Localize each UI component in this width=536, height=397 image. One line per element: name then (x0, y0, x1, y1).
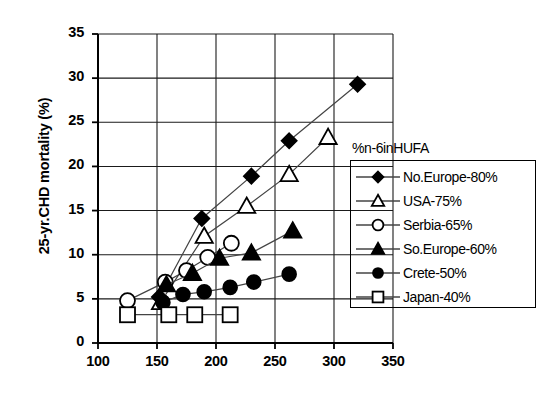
marker-open-square (187, 307, 202, 322)
y-tick-label: 35 (44, 24, 84, 40)
legend-item-label: No.Europe-80% (403, 169, 497, 185)
marker-open-circle (373, 220, 384, 231)
marker-filled-triangle (284, 222, 301, 237)
legend-marker-open-triangle (355, 191, 401, 211)
legend-item-japan-40[interactable]: Japan-40% (355, 285, 470, 309)
x-tick-label: 200 (186, 353, 246, 369)
y-tick-label: 0 (44, 333, 84, 349)
legend-item-label: Crete-50% (403, 265, 466, 281)
legend-marker-open-square (355, 287, 401, 307)
legend-marker-filled-triangle (355, 239, 401, 259)
x-tick-label: 150 (127, 353, 187, 369)
legend-title: %n-6inHUFA (352, 140, 429, 156)
marker-open-circle (120, 293, 135, 308)
x-tick-label: 100 (68, 353, 128, 369)
gridlines (98, 34, 393, 343)
series-usa-75 (152, 129, 337, 309)
legend-box: No.Europe-80%USA-75%Serbia-65%So.Europe-… (350, 160, 536, 308)
marker-filled-circle (373, 268, 383, 278)
marker-open-triangle (196, 228, 213, 243)
legend-marker-filled-diamond (355, 167, 401, 187)
y-tick-label: 20 (44, 156, 84, 172)
legend-marker-filled-circle (355, 263, 401, 283)
y-tick-label: 5 (44, 289, 84, 305)
legend-item-no-europe-80[interactable]: No.Europe-80% (355, 165, 497, 189)
marker-filled-diamond (373, 172, 384, 183)
legend-item-label: Japan-40% (403, 289, 470, 305)
x-tick-label: 350 (363, 353, 423, 369)
marker-open-triangle (238, 198, 255, 213)
marker-open-triangle (372, 195, 384, 206)
x-tick-label: 250 (245, 353, 305, 369)
marker-filled-triangle (372, 243, 384, 254)
legend-sample-graphic (356, 220, 400, 231)
marker-filled-circle (247, 275, 261, 289)
y-tick-label: 25 (44, 112, 84, 128)
marker-open-square (373, 292, 384, 303)
legend-item-label: Serbia-65% (403, 217, 472, 233)
marker-filled-circle (223, 280, 237, 294)
marker-filled-triangle (243, 244, 260, 259)
legend-sample-graphic (356, 195, 400, 206)
legend-sample-graphic (356, 292, 400, 303)
axes (92, 34, 393, 349)
y-tick-label: 15 (44, 201, 84, 217)
marker-filled-diamond (350, 77, 365, 92)
legend-sample-graphic (356, 243, 400, 254)
y-tick-label: 10 (44, 245, 84, 261)
legend-marker-open-circle (355, 215, 401, 235)
y-tick-label: 30 (44, 68, 84, 84)
legend-item-usa-75[interactable]: USA-75% (355, 189, 462, 213)
legend-item-crete-50[interactable]: Crete-50% (355, 261, 466, 285)
marker-open-square (161, 307, 176, 322)
marker-open-square (120, 307, 135, 322)
legend-item-serbia-65[interactable]: Serbia-65% (355, 213, 472, 237)
series-japan-40 (120, 307, 238, 322)
marker-open-square (223, 307, 238, 322)
legend-sample-graphic (356, 268, 400, 278)
marker-open-circle (224, 236, 239, 251)
legend-item-label: So.Europe-60% (403, 241, 497, 257)
legend-item-label: USA-75% (403, 193, 462, 209)
marker-filled-circle (176, 288, 190, 302)
legend-item-so-europe-60[interactable]: So.Europe-60% (355, 237, 497, 261)
legend-sample-graphic (356, 172, 400, 183)
x-tick-label: 300 (304, 353, 364, 369)
marker-filled-circle (197, 285, 211, 299)
marker-filled-circle (282, 267, 296, 281)
